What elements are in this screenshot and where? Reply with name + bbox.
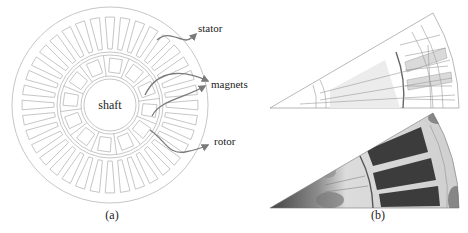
rotor-magnet xyxy=(86,60,102,78)
stator-slot xyxy=(165,85,198,97)
stator-slot xyxy=(50,35,76,64)
stator-slot xyxy=(157,131,188,153)
stator-slot xyxy=(144,147,170,176)
stator-slot xyxy=(90,18,102,51)
stator-slot xyxy=(165,113,198,125)
rotor-magnet xyxy=(109,58,123,74)
rotor-pole-divider xyxy=(139,98,160,101)
stator-slot xyxy=(40,139,69,165)
stator-slot xyxy=(105,17,115,49)
stator-slot xyxy=(127,21,145,53)
stator-slot xyxy=(62,27,84,58)
stator-slot xyxy=(75,21,93,53)
magnets-label: magnets xyxy=(211,78,248,90)
stator-slot xyxy=(62,152,84,183)
inner-arc-2 xyxy=(313,85,316,108)
rotor-magnet xyxy=(98,137,112,153)
motor-figure: shaft stator magnets rotor (a) xyxy=(0,0,468,233)
stator-slot xyxy=(127,157,145,189)
stator-slot xyxy=(23,85,56,97)
stator-slot xyxy=(136,152,158,183)
stator-slot xyxy=(118,18,130,51)
stator-slot xyxy=(90,160,102,193)
stator-slot xyxy=(157,57,188,79)
field-dark-spot xyxy=(320,166,336,178)
rotor-magnet xyxy=(63,93,79,107)
rotor-magnet xyxy=(65,112,83,128)
mesh-line xyxy=(405,99,455,100)
stator-label: stator xyxy=(198,22,223,34)
mesh-sector xyxy=(270,13,459,108)
field-sector xyxy=(270,112,464,214)
field-dark-spot xyxy=(316,192,344,208)
rotor-magnet xyxy=(125,64,143,82)
rotor-pole-divider xyxy=(103,55,106,76)
stator-slot xyxy=(32,57,63,79)
stator-slot xyxy=(40,45,69,71)
stator-slot xyxy=(162,122,194,140)
rotor-pole-divider xyxy=(60,109,81,112)
rotor-pole-divider xyxy=(114,134,117,155)
rotor-arrow xyxy=(150,130,208,152)
shaft-label: shaft xyxy=(98,98,122,112)
rotor-magnet xyxy=(77,127,95,145)
mesh-line xyxy=(400,35,440,45)
stator-slot xyxy=(23,113,56,125)
rotor-magnet xyxy=(69,72,87,90)
stator-slot xyxy=(105,161,115,193)
stator-slot xyxy=(26,122,58,140)
rotor-magnet xyxy=(132,120,150,138)
caption-b: (b) xyxy=(371,208,385,222)
stator-slot xyxy=(152,45,181,71)
stator-slot xyxy=(136,27,158,58)
stator-slot xyxy=(26,70,58,88)
field-dark-edge xyxy=(428,112,448,124)
rotor-magnet xyxy=(117,133,133,151)
rotor-magnet xyxy=(142,104,158,118)
stator-slot xyxy=(166,100,198,110)
inner-arc xyxy=(320,80,326,108)
stator-slot xyxy=(32,131,63,153)
stator-slot xyxy=(50,147,76,176)
stator-slot xyxy=(22,100,54,110)
caption-a: (a) xyxy=(105,208,118,222)
stator-slot xyxy=(118,160,130,193)
field-dark-edge xyxy=(448,186,464,214)
stator-slot xyxy=(75,157,93,189)
rotor-label: rotor xyxy=(214,135,236,147)
